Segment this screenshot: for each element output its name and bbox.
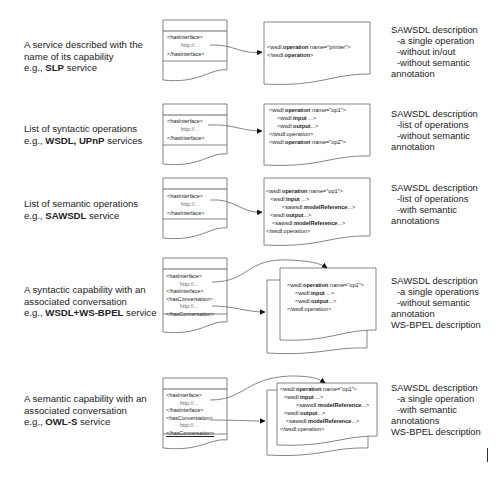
- row-2-label-line1: List of syntactic operations: [24, 123, 142, 135]
- row-5-profile-text: <hasInterface> http://... </hasInterface…: [166, 392, 214, 438]
- row-5-label: A semantic capability with an associated…: [24, 393, 147, 428]
- row-5-description: SAWSDL description -a single operation -…: [391, 382, 481, 437]
- row-3-sawsdl-text: <wsdl:operation name="op1"> <wsdl:input …: [266, 187, 355, 235]
- row-4-description: SAWSDL description -a single operations …: [391, 275, 481, 330]
- row-1-label: A service described with the name of its…: [24, 39, 143, 74]
- row-4-label-line1: A syntactic capability with an: [24, 284, 157, 296]
- row-2-label: List of syntactic operations e.g., WSDL,…: [24, 123, 142, 146]
- row-1-label-line2: name of its capability: [24, 51, 143, 63]
- row-1-description: SAWSDL description -a single operation -…: [391, 24, 478, 79]
- row-4-profile-text: <hasInterface> http://... </hasInterface…: [166, 273, 214, 319]
- row-1-sawsdl-text: <wsdl:operation name="printer"> </wsdl:o…: [267, 43, 350, 59]
- row-1-label-example: e.g., SLP service: [24, 62, 143, 74]
- row-3-label-example: e.g., SAWSDL service: [24, 210, 138, 222]
- row-5-label-example: e.g., OWL-S service: [24, 416, 147, 428]
- row-4-label: A syntactic capability with an associate…: [24, 284, 157, 319]
- row-2-profile-text: <hasInterface> http://... </hasInterface…: [167, 118, 204, 143]
- row-2-sawsdl-text: <wsdl:operation name="op1"> <wsdl:input …: [269, 106, 346, 146]
- row-3-label-line1: List of semantic operations: [24, 198, 138, 210]
- row-4-label-line2: associated conversation: [24, 296, 157, 308]
- row-5-sawsdl-text: <wsdl:operation name="op1"> <wsdl:input …: [280, 385, 369, 433]
- row-1-label-line1: A service described with the: [24, 39, 143, 51]
- row-5-label-line1: A semantic capability with an: [24, 393, 147, 405]
- row-4-label-example: e.g., WSDL+WS-BPEL service: [24, 307, 157, 319]
- row-4-sawsdl-text: <wsdl:operation name="op1"> <wsdl:input …: [287, 281, 364, 313]
- row-1-profile-text: <hasInterface> http://... </hasInterface…: [167, 34, 204, 59]
- row-2-description: SAWSDL description -list of operations -…: [391, 108, 478, 152]
- diagram-canvas: A service described with the name of its…: [0, 0, 503, 478]
- row-3-label: List of semantic operations e.g., SAWSDL…: [24, 198, 138, 221]
- row-5-label-line2: associated conversation: [24, 405, 147, 417]
- row-3-description: SAWSDL description -list of operations -…: [391, 182, 478, 226]
- row-2-label-example: e.g., WSDL, UPnP services: [24, 135, 142, 147]
- row-3-profile-text: <hasInterface> http://... </hasInterface…: [167, 193, 204, 218]
- text-cursor-mark: [487, 448, 488, 462]
